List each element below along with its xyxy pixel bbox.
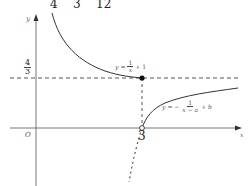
x-axis-arrow-icon: [235, 126, 242, 131]
y-axis-label: y: [26, 15, 30, 23]
diagram: 4 3 12 y x O 4 3 3 y = 1 x + 1 y = − 1 x…: [0, 0, 251, 186]
top-value-3: 12: [96, 0, 111, 11]
eq-upper-rest: + 1: [135, 63, 146, 70]
eq-upper-lhs: y: [115, 63, 118, 70]
y-axis-arrow-icon: [34, 14, 39, 21]
upper-curve-equation: y = 1 x + 1: [115, 60, 146, 73]
eq-lower-lhs: y: [162, 103, 165, 110]
eq-lower-equals: = −: [167, 103, 179, 110]
lower-curve-equation: y = − 1 x − a + b: [162, 100, 212, 113]
eq-upper-equals: =: [120, 63, 125, 70]
top-value-1: 4: [50, 0, 58, 11]
top-value-2: 3: [73, 0, 81, 11]
x-tick-three: 3: [138, 129, 146, 143]
y-tick-denominator: 3: [24, 68, 31, 76]
eq-upper-denominator: x: [128, 67, 133, 73]
eq-lower-denominator: x − a: [181, 107, 199, 113]
filled-point: [139, 75, 144, 80]
origin-label: O: [25, 131, 31, 139]
x-axis-label: x: [240, 131, 243, 138]
y-tick-four-thirds: 4 3: [24, 59, 31, 76]
eq-lower-rest: + b: [201, 103, 212, 110]
graph-canvas: [0, 0, 251, 186]
